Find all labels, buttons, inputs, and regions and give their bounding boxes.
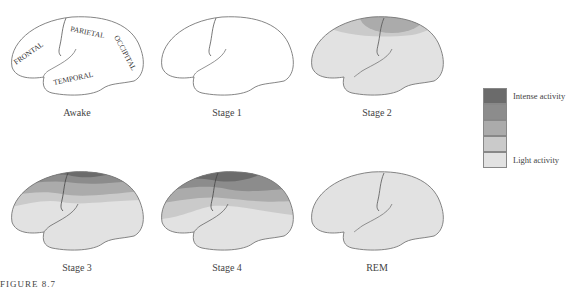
- brain-activity-map-icon: [302, 5, 452, 105]
- legend-swatch-level-4: [483, 136, 507, 152]
- panel-awake: FRONTAL PARIETAL OCCIPITAL TEMPORAL Awak…: [2, 5, 152, 125]
- legend-label-light: Light activity: [513, 155, 559, 165]
- legend-swatch-level-2: [483, 104, 507, 120]
- panel-caption: Stage 4: [152, 262, 302, 273]
- brain-activity-map-icon: [152, 160, 302, 260]
- figure-label: FIGURE 8.7: [0, 279, 56, 287]
- panel-caption: Awake: [2, 107, 152, 118]
- panel-caption: Stage 1: [152, 107, 302, 118]
- panel-caption: Stage 2: [302, 107, 452, 118]
- brain-outline-icon: FRONTAL PARIETAL OCCIPITAL TEMPORAL: [2, 5, 152, 105]
- panel-stage-4: Stage 4: [152, 160, 302, 280]
- legend-label-intense: Intense activity: [513, 91, 565, 101]
- brain-activity-map-icon: [302, 160, 452, 260]
- legend-swatch-level-1: [483, 88, 507, 104]
- panel-caption: Stage 3: [2, 262, 152, 273]
- panel-caption: REM: [302, 262, 452, 273]
- brain-activity-map-icon: [2, 160, 152, 260]
- panel-stage-2: Stage 2: [302, 5, 452, 125]
- panel-stage-1: Stage 1: [152, 5, 302, 125]
- legend-swatch-level-5: [483, 152, 507, 168]
- brain-outline-icon: [152, 5, 302, 105]
- legend-swatch-level-3: [483, 120, 507, 136]
- panel-rem: REM: [302, 160, 452, 280]
- panel-stage-3: Stage 3: [2, 160, 152, 280]
